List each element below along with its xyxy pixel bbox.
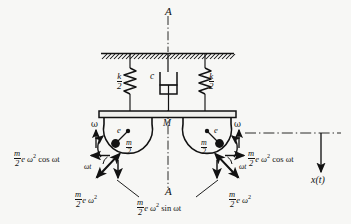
centerline-label-bottom: A	[165, 186, 172, 197]
omega-arrow-left	[96, 130, 103, 157]
force-right-horizontal-label: m 2 e ω2 cos ωt	[247, 149, 294, 167]
force-left-angle-label: ωt	[84, 163, 91, 171]
force-left-horizontal-label: m 2 e ω2 cos ωt	[13, 149, 60, 167]
force-vertical-exp: 2	[156, 202, 159, 208]
platform-mass	[99, 111, 236, 118]
force-right-r-den: 2	[229, 200, 236, 209]
force-right-r-rest: e ω	[236, 195, 248, 205]
force-right-r-exp: 2	[248, 194, 251, 200]
force-vertical-rest: e ω	[144, 203, 156, 213]
rotor-right-e-label: e	[214, 126, 218, 135]
force-right-h-rest: e ω	[255, 154, 267, 164]
force-left-h-trig: cos ωt	[38, 154, 59, 164]
spring-right-label: k 2	[208, 72, 215, 91]
vibration-diagram-svg	[0, 0, 351, 224]
force-right-resultant-label: m 2 e ω2	[228, 190, 251, 208]
force-vertical-trig: sin ωt	[161, 203, 181, 213]
spring-left-denominator: 2	[117, 82, 123, 91]
damper-label: c	[150, 72, 154, 82]
force-left-r-rest: e ω	[82, 195, 94, 205]
omega-label-right: ω	[234, 120, 241, 129]
omega-label-left: ω	[91, 120, 98, 129]
force-left-h-rest: e ω	[21, 154, 33, 164]
force-vertical-label: m 2 e ω2 sin ωt	[136, 198, 181, 216]
centerline-label-top: A	[165, 6, 172, 17]
force-right-h-exp: 2	[267, 153, 270, 159]
force-left-h-den: 2	[14, 159, 21, 168]
spring-right-denominator: 2	[209, 82, 215, 91]
spring-left	[124, 54, 136, 112]
rotor-left-mass-label: m 2	[125, 139, 133, 156]
force-right-h-trig: cos ωt	[272, 154, 293, 164]
rotor-left-mass-denominator: 2	[126, 148, 133, 156]
force-left-h-exp: 2	[33, 153, 36, 159]
rotor-left-e-label: e	[117, 126, 121, 135]
force-right-h-den: 2	[248, 159, 255, 168]
platform-label: M	[163, 119, 171, 129]
spring-left-label: k 2	[116, 72, 123, 91]
rotor-right-mass-denominator: 2	[201, 148, 208, 156]
rotor-right-mass-label: m 2	[200, 139, 208, 156]
figure-canvas: A A k 2 k 2 c M e e m 2 m 2 ω ω	[0, 0, 351, 224]
force-left-resultant-label: m 2 e ω2	[74, 190, 97, 208]
omega-arrow-right	[232, 130, 239, 157]
displacement-label: x(t)	[311, 175, 325, 185]
force-vertical-den: 2	[137, 208, 144, 217]
force-left-r-exp: 2	[94, 194, 97, 200]
force-left-r-den: 2	[75, 200, 82, 209]
damper	[160, 54, 178, 112]
force-right-angle-label: ωt	[239, 163, 246, 171]
force-triad-left	[91, 154, 120, 179]
